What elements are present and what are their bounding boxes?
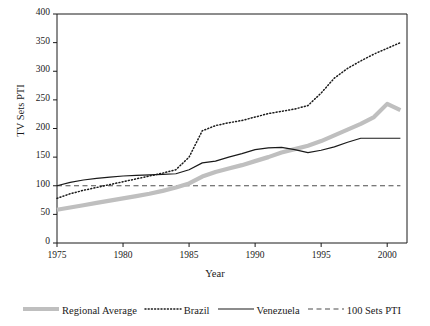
legend-label: 100 Sets PTI xyxy=(347,305,401,316)
x-tick-1990: 1990 xyxy=(225,250,285,260)
legend-item-venezuela: Venezuela xyxy=(217,303,307,317)
y-tick-250: 250 xyxy=(8,93,50,103)
legend-item-regional-average: Regional Average xyxy=(22,303,144,317)
legend-item-brazil: Brazil xyxy=(144,303,217,317)
y-tick-300: 300 xyxy=(8,64,50,74)
series-line-venezuela xyxy=(57,138,400,186)
legend-swatch-solid-thin-icon xyxy=(217,303,255,317)
y-tick-350: 350 xyxy=(8,36,50,46)
chart-legend: Regional AverageBrazilVenezuela100 Sets … xyxy=(0,300,430,320)
y-tick-0: 0 xyxy=(8,236,50,246)
legend-label: Regional Average xyxy=(62,305,137,316)
legend-label: Venezuela xyxy=(257,305,300,316)
legend-swatch-solid-thick-gray-icon xyxy=(22,303,60,317)
y-tick-200: 200 xyxy=(8,122,50,132)
legend-swatch-dashed-icon xyxy=(307,303,345,317)
legend-swatch-dotted-icon xyxy=(144,303,182,317)
y-tick-100: 100 xyxy=(8,179,50,189)
x-tick-2000: 2000 xyxy=(357,250,417,260)
y-tick-50: 50 xyxy=(8,207,50,217)
y-tick-150: 150 xyxy=(8,150,50,160)
legend-item-100-sets-pti: 100 Sets PTI xyxy=(307,303,408,317)
x-tick-1980: 1980 xyxy=(93,250,153,260)
x-tick-1995: 1995 xyxy=(291,250,351,260)
legend-label: Brazil xyxy=(184,305,210,316)
x-axis-title: Year xyxy=(0,268,430,279)
series-line-brazil xyxy=(57,43,400,199)
y-tick-400: 400 xyxy=(8,7,50,17)
x-tick-1975: 1975 xyxy=(27,250,87,260)
x-tick-1985: 1985 xyxy=(159,250,219,260)
tv-sets-pti-line-chart: TV Sets PTI 050100150200250300350400 197… xyxy=(0,0,430,326)
